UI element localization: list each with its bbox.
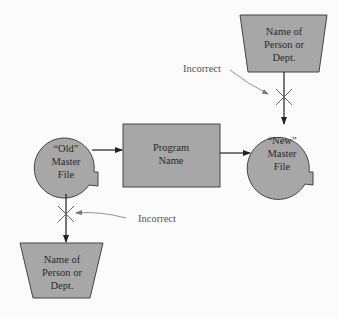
edge-dept-top-to-new-file — [276, 72, 292, 124]
annotation-top-text: Incorrect — [183, 63, 221, 74]
edge-old-file-to-dept-bottom — [58, 194, 74, 242]
program-line1: Program — [153, 142, 189, 153]
dept-bottom-line3: Dept. — [50, 280, 73, 291]
node-program: Program Name — [123, 124, 220, 187]
node-dept-bottom: Name of Person or Dept. — [20, 243, 103, 298]
dept-bottom-line1: Name of — [44, 254, 81, 265]
dept-top-line3: Dept. — [272, 52, 295, 63]
dept-top-line1: Name of — [266, 26, 303, 37]
dept-bottom-line2: Person or — [42, 267, 82, 278]
annotation-incorrect-bottom: Incorrect — [76, 213, 176, 224]
annotation-bottom-text: Incorrect — [138, 213, 176, 224]
node-old-master-file: “Old” Master File — [34, 138, 98, 198]
new-file-line1: “New” — [267, 135, 296, 146]
program-line2: Name — [158, 155, 183, 166]
dept-top-line2: Person or — [264, 39, 304, 50]
node-dept-top: Name of Person or Dept. — [240, 15, 327, 72]
node-new-master-file: “New” Master File — [247, 135, 313, 199]
new-file-line2: Master — [267, 148, 297, 159]
flowchart-diagram: Name of Person or Dept. Incorrect “Old” … — [0, 0, 339, 319]
old-file-line1: “Old” — [53, 143, 78, 154]
old-file-line2: Master — [51, 156, 81, 167]
new-file-line3: File — [274, 161, 291, 172]
old-file-line3: File — [58, 169, 75, 180]
